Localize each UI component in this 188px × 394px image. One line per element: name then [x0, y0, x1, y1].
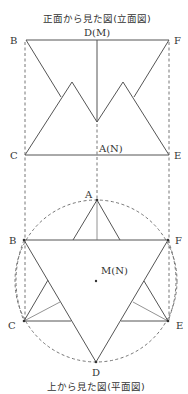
label-d-m: D(M) [84, 27, 110, 38]
label-c-elev: C [10, 150, 18, 161]
label-f-plan: F [175, 235, 182, 246]
label-m-n: M(N) [101, 265, 128, 276]
diagram-canvas: 正面から見た図(立面図) D(M) B F C E A(N) [0, 0, 188, 394]
label-b-plan: B [9, 235, 16, 246]
center-point-m [95, 280, 97, 282]
plan-figure [15, 199, 177, 364]
label-c-plan: C [8, 320, 16, 331]
label-a-n: A(N) [98, 143, 123, 154]
label-d-plan: D [92, 367, 100, 378]
label-a-plan: A [84, 189, 93, 200]
label-e-plan: E [176, 320, 183, 331]
label-e-elev: E [174, 150, 181, 161]
elevation-title: 正面から見た図(立面図) [43, 13, 150, 24]
label-b-elev: B [10, 35, 17, 46]
plan-title: 上から見た図(平面図) [47, 381, 144, 392]
label-f-elev: F [174, 35, 181, 46]
